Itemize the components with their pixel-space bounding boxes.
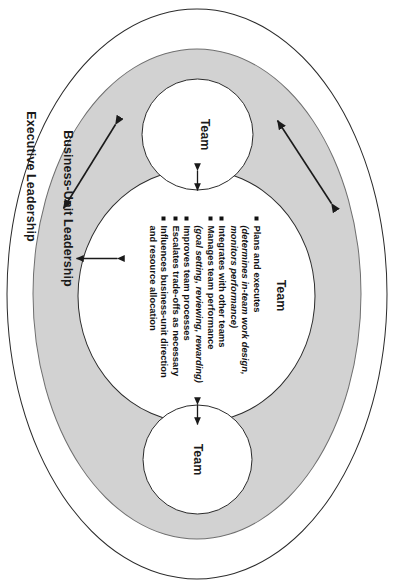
responsibility-main: Escalates trade-offs as necessary (170, 225, 181, 376)
responsibility-main: Manages team performance (205, 225, 216, 349)
responsibility-main: Integrates with other teams (216, 225, 227, 347)
responsibility-main: Influences business-unit direction (158, 225, 169, 377)
responsibility-cont: monitors performance) (227, 225, 239, 404)
responsibility-list: Plans and executes (determines in-team w… (146, 216, 262, 404)
list-item: Integrates with other teams (216, 216, 228, 404)
diagram-rotated-group: Executive Leadership Business-Unit Leade… (0, 0, 393, 587)
executive-leadership-label: Executive Leadership (23, 111, 37, 242)
responsibility-sub: (goal setting, reviewing, rewarding) (192, 225, 204, 404)
responsibility-cont: and resource allocation (146, 225, 158, 404)
team-label-bottom: Team (197, 118, 211, 150)
team-label-center: Team (273, 279, 287, 311)
list-item: Manages team performance (goal setting, … (192, 216, 215, 404)
team-label-top: Team (190, 443, 204, 475)
list-item: Escalates trade-offs as necessary (169, 216, 181, 404)
responsibility-main: Plans and executes (251, 225, 262, 312)
responsibility-sub: (determines in-team work design, (239, 225, 251, 404)
list-item: Plans and executes (determines in-team w… (227, 216, 262, 404)
business-unit-leadership-label: Business-Unit Leadership (60, 130, 74, 287)
diagram-canvas: Executive Leadership Business-Unit Leade… (0, 0, 393, 587)
responsibility-main: Improves team processes (181, 225, 192, 340)
list-item: Influences business-unit direction and r… (146, 216, 169, 404)
list-item: Improves team processes (181, 216, 193, 404)
